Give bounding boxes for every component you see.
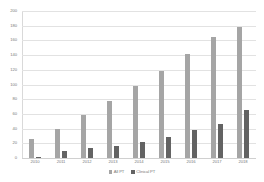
bar [29,139,35,158]
chart-legend: All PTClinical PT [0,170,264,174]
bar [36,157,42,158]
y-tick-label: 180 [10,24,17,28]
bar [185,54,191,158]
bar [62,151,68,158]
x-axis-tick-labels: 201020112012201320142015201620172018 [22,160,256,168]
bar-group [100,11,126,158]
x-tick-label: 2013 [109,160,118,164]
y-tick-label: 140 [10,53,17,57]
bar-group [74,11,100,158]
y-axis-tick-labels: 020406080100120140160180200 [0,11,20,158]
x-tick-label: 2011 [57,160,66,164]
x-tick-label: 2016 [187,160,196,164]
bar [218,124,224,158]
bar-group [204,11,230,158]
bars-layer [22,11,256,158]
plot-area [22,11,256,158]
legend-label: All PT [114,170,125,174]
bar [244,110,250,158]
bar [192,130,198,158]
y-tick-label: 100 [10,82,17,86]
bar [211,37,217,158]
bar [140,142,146,158]
bar [166,137,172,158]
bar-chart: 020406080100120140160180200 201020112012… [0,0,264,182]
bar [133,86,139,158]
bar-group [22,11,48,158]
x-tick-label: 2017 [213,160,222,164]
y-tick-label: 40 [13,126,17,130]
legend-swatch-icon [109,170,113,174]
y-tick-label: 200 [10,9,17,13]
x-tick-label: 2018 [239,160,248,164]
bar-group [48,11,74,158]
x-tick-label: 2015 [161,160,170,164]
x-tick-label: 2012 [83,160,92,164]
y-tick-label: 0 [15,156,17,160]
legend-swatch-icon [131,170,135,174]
bar [81,115,87,158]
bar-group [178,11,204,158]
bar-group [152,11,178,158]
bar [159,71,165,158]
bar [88,148,94,158]
legend-entry[interactable]: Clinical PT [131,170,155,174]
y-tick-label: 160 [10,38,17,42]
bar [237,27,243,158]
y-tick-label: 80 [13,97,17,101]
legend-label: Clinical PT [136,170,155,174]
y-tick-label: 60 [13,112,17,116]
y-tick-label: 20 [13,141,17,145]
bar-group [230,11,256,158]
bar [107,101,113,158]
bar-group [126,11,152,158]
y-tick-label: 120 [10,68,17,72]
legend-entry[interactable]: All PT [109,170,125,174]
x-tick-label: 2010 [31,160,40,164]
bar [55,129,61,158]
x-tick-label: 2014 [135,160,144,164]
bar [114,146,120,158]
